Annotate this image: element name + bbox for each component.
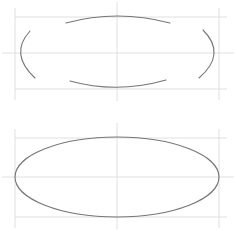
top-figure <box>2 2 234 101</box>
bottom-arc-segment <box>70 80 166 87</box>
bottom-figure <box>2 123 234 229</box>
ellipse-construction-diagram <box>0 0 236 231</box>
left-arc-segment <box>21 31 35 78</box>
right-arc-segment <box>199 30 214 78</box>
bottom-figure-guides <box>2 123 234 229</box>
drawing-canvas <box>0 0 236 231</box>
top-figure-guides <box>2 2 234 101</box>
